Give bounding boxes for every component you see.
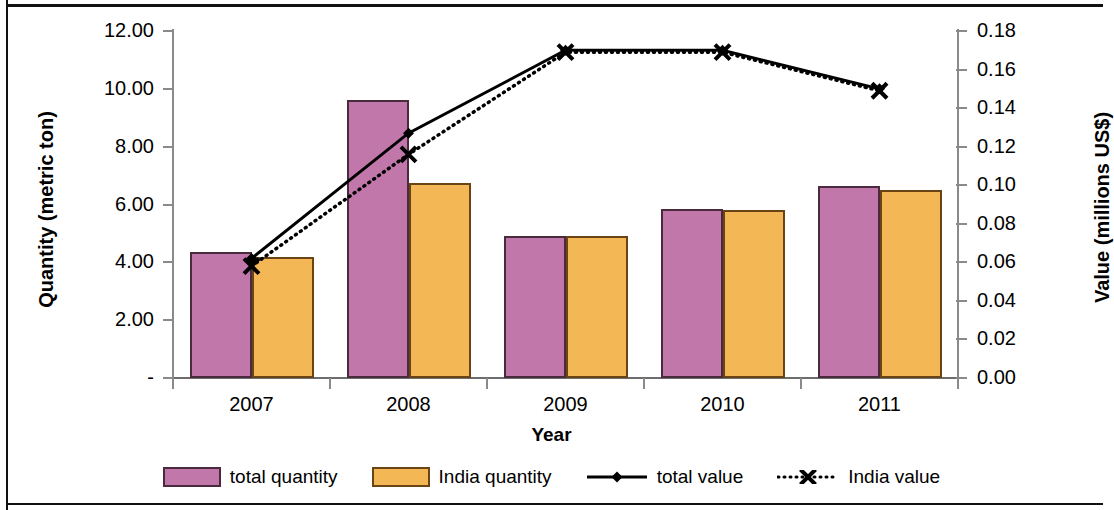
legend-swatch-orange-icon <box>372 467 430 487</box>
legend-line-dotted-x-icon <box>777 470 839 484</box>
y-axis-left-tick-label: 2.00 <box>34 309 154 329</box>
y-axis-right-tick-label: 0.00 <box>977 367 1097 387</box>
x-axis-tick-label: 2008 <box>349 393 469 416</box>
marker-india-value-2008 <box>401 147 416 162</box>
legend-label: total value <box>657 466 744 488</box>
y-axis-left-tick-label: 12.00 <box>34 20 154 40</box>
line-series-group <box>173 31 958 378</box>
y-axis-right-tick-label: 0.12 <box>977 136 1097 156</box>
y-axis-left-tick-label: - <box>34 367 154 387</box>
legend-swatch-pink-icon <box>163 467 221 487</box>
x-axis-tick-label: 2007 <box>192 393 312 416</box>
legend-line-solid-diamond-icon <box>586 470 648 484</box>
y-axis-right-tick-label: 0.16 <box>977 59 1097 79</box>
x-axis-tick-mark <box>800 378 802 389</box>
legend-item-total-value[interactable]: total value <box>586 466 744 488</box>
legend-item-total-quantity[interactable]: total quantity <box>163 466 338 488</box>
x-axis-tick-label: 2009 <box>506 393 626 416</box>
legend-item-india-quantity[interactable]: India quantity <box>372 466 552 488</box>
x-axis-tick-label: 2011 <box>820 393 940 416</box>
line-india-value <box>252 52 880 266</box>
y-axis-right-tick-label: 0.10 <box>977 174 1097 194</box>
y-axis-right-tick-label: 0.02 <box>977 328 1097 348</box>
line-total-value <box>252 50 880 258</box>
y-axis-left-tick-label: 10.00 <box>34 78 154 98</box>
legend-label: total quantity <box>230 466 338 488</box>
y-axis-left-tick-label: 6.00 <box>34 194 154 214</box>
y-axis-left-tick-label: 8.00 <box>34 136 154 156</box>
plot-area <box>173 31 958 378</box>
figure-border-top <box>6 4 1103 7</box>
y-axis-right-tick-label: 0.18 <box>977 20 1097 40</box>
y-axis-right-tick-label: 0.06 <box>977 251 1097 271</box>
y-axis-right-tick-label: 0.14 <box>977 97 1097 117</box>
x-axis-tick-mark <box>172 378 174 389</box>
x-axis-tick-mark <box>329 378 331 389</box>
x-axis-tick-mark <box>643 378 645 389</box>
x-axis-tick-label: 2010 <box>663 393 783 416</box>
figure-border-bottom <box>6 503 1103 505</box>
y-axis-right-tick-label: 0.04 <box>977 290 1097 310</box>
legend-label: India value <box>848 466 940 488</box>
legend-label: India quantity <box>439 466 552 488</box>
x-axis-tick-mark <box>957 378 959 389</box>
x-axis-tick-mark <box>486 378 488 389</box>
y-axis-right-tick-label: 0.08 <box>977 213 1097 233</box>
x-axis-title: Year <box>0 424 1103 446</box>
chart-legend: total quantityIndia quantitytotal valueI… <box>0 466 1103 488</box>
y-axis-left-tick-label: 4.00 <box>34 251 154 271</box>
legend-item-india-value[interactable]: India value <box>777 466 940 488</box>
